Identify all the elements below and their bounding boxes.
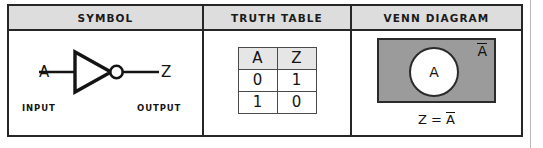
truth-table-cell-a: 0 <box>238 69 277 91</box>
header-label-truth-table: TRUTH TABLE <box>231 12 323 24</box>
truth-table-cell-a: 1 <box>238 91 277 113</box>
venn-set-circle-label: A <box>429 64 439 80</box>
venn-diagram-cell: A A Z = A <box>352 31 521 135</box>
venn-equation-lhs: Z <box>418 112 427 127</box>
truth-table-col-header-a: A <box>238 47 277 69</box>
symbol-cell: A Z INPUT OUTPUT <box>9 31 204 135</box>
venn-set-circle: A <box>409 47 459 97</box>
symbol-input-pin-label: A <box>39 63 49 81</box>
table-header-row: SYMBOL TRUTH TABLE VENN DIAGRAM <box>9 6 521 31</box>
symbol-output-caption: OUTPUT <box>137 103 181 113</box>
truth-table-cell-z: 1 <box>277 69 316 91</box>
header-cell-venn-diagram: VENN DIAGRAM <box>352 6 521 29</box>
venn-equation-rhs: A <box>446 112 455 127</box>
truth-table-row: 1 0 <box>238 91 316 113</box>
symbol-output-pin-label: Z <box>161 63 171 81</box>
header-cell-symbol: SYMBOL <box>9 6 204 29</box>
header-cell-truth-table: TRUTH TABLE <box>204 6 352 29</box>
truth-table-header-row: A Z <box>238 47 316 69</box>
header-label-venn-diagram: VENN DIAGRAM <box>384 12 490 24</box>
venn-complement-label: A <box>477 43 487 59</box>
symbol-input-caption: INPUT <box>22 103 56 113</box>
truth-table-cell: A Z 0 1 1 0 <box>204 31 352 135</box>
truth-table-row: 0 1 <box>238 69 316 91</box>
truth-table-col-header-z: Z <box>277 47 316 69</box>
venn-universe-rectangle: A A <box>377 38 496 103</box>
venn-equation: Z = A <box>418 112 455 127</box>
venn-complement-label-text: A <box>477 43 487 59</box>
truth-table: A Z 0 1 1 0 <box>238 47 317 114</box>
header-label-symbol: SYMBOL <box>78 12 134 24</box>
page-edge-line <box>530 0 531 148</box>
table-body-row: A Z INPUT OUTPUT A Z 0 1 <box>9 31 521 135</box>
truth-table-cell-z: 0 <box>277 91 316 113</box>
logic-gate-reference-table: SYMBOL TRUTH TABLE VENN DIAGRAM A Z <box>7 4 523 137</box>
venn-equation-operator: = <box>431 112 442 127</box>
